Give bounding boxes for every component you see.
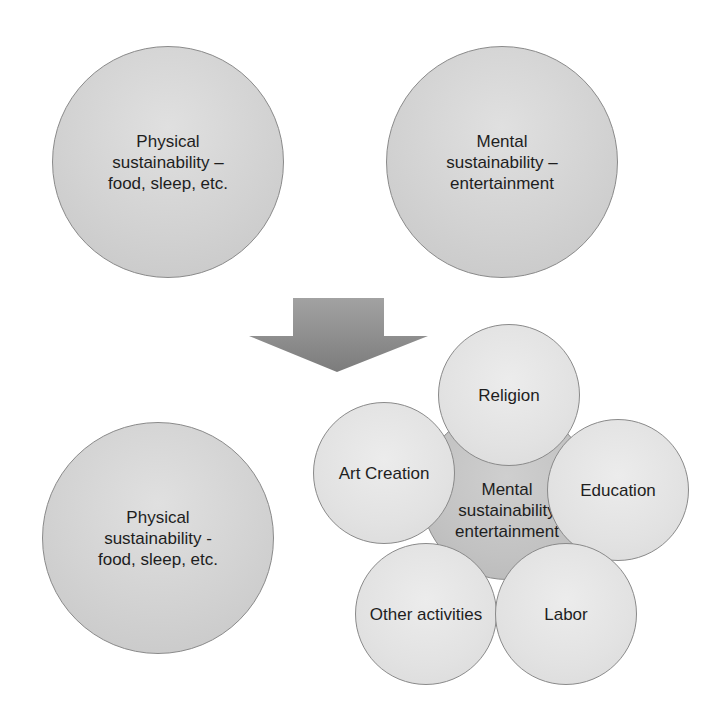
diagram-canvas: Physical sustainability – food, sleep, e… [0,0,721,724]
labor-circle: Labor [495,543,637,685]
education-label: Education [570,480,666,501]
physical-sustainability-circle-bottom: Physical sustainability - food, sleep, e… [42,422,274,654]
education-circle: Education [547,419,689,561]
art-creation-circle: Art Creation [313,402,455,544]
religion-label: Religion [468,385,549,406]
physical-sustainability-label-bottom: Physical sustainability - food, sleep, e… [88,507,228,570]
religion-circle: Religion [438,324,580,466]
labor-label: Labor [534,604,597,625]
other-activities-label: Other activities [368,604,484,625]
other-activities-circle: Other activities [355,543,497,685]
art-creation-label: Art Creation [329,463,440,484]
